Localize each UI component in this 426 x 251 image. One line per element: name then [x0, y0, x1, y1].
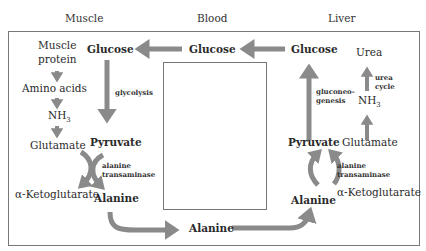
- blood-alanine-label: Alanine: [189, 223, 234, 234]
- liver-glucose-label: Glucose: [291, 44, 338, 55]
- urea-cycle-label-2: cycle: [375, 83, 395, 91]
- arrow-muscle-alanine-to-blood: [110, 212, 172, 230]
- glycolysis-label: glycolysis: [115, 89, 153, 97]
- muscle-glutamate-label: Glutamate: [30, 140, 86, 151]
- header-blood: Blood: [197, 13, 227, 24]
- muscle-protein-label-2: protein: [38, 54, 77, 65]
- liver-pyruvate-label: Pyruvate: [288, 137, 340, 148]
- muscle-pyruvate-label: Pyruvate: [90, 137, 142, 148]
- urea-cycle-label-1: urea: [375, 74, 393, 82]
- urea-label: Urea: [356, 47, 382, 58]
- muscle-nh3-label: NH3: [48, 110, 71, 124]
- liver-glutamate-label: Glutamate: [342, 137, 398, 148]
- gluconeogenesis-label-1: gluconeo-: [316, 88, 355, 96]
- muscle-enzyme-label-1: alanine: [102, 162, 131, 170]
- liver-enzyme-label-1: alanine: [337, 162, 366, 170]
- liver-alanine-label: Alanine: [291, 195, 336, 206]
- arrow-blood-alanine-to-liver: [232, 214, 309, 228]
- header-liver: Liver: [328, 13, 356, 24]
- blood-glucose-label: Glucose: [189, 44, 236, 55]
- gluconeogenesis-label-2: genesis: [316, 97, 345, 105]
- liver-nh3-label: NH3: [358, 95, 381, 109]
- muscle-glucose-label: Glucose: [87, 44, 134, 55]
- liver-nh3-subscript: 3: [376, 101, 380, 109]
- liver-alpha-ketoglutarate-label: α-Ketoglutarate: [337, 187, 421, 198]
- arrow-liver-alanine-to-pyruvate: [310, 154, 318, 185]
- muscle-enzyme-label-2: transaminase: [102, 171, 155, 179]
- arrows-layer: [0, 0, 426, 251]
- arrow-muscle-glutamate-to-akg: [81, 152, 91, 184]
- muscle-nh3-text: NH: [48, 109, 66, 121]
- liver-nh3-text: NH: [358, 94, 376, 106]
- amino-acids-label: Amino acids: [22, 83, 87, 94]
- liver-enzyme-label-2: transaminase: [337, 171, 390, 179]
- muscle-alanine-label: Alanine: [94, 193, 139, 204]
- muscle-alpha-ketoglutarate-label: α-Ketoglutarate: [15, 189, 99, 200]
- muscle-protein-label-1: Muscle: [38, 40, 76, 51]
- muscle-nh3-subscript: 3: [66, 116, 70, 124]
- header-muscle: Muscle: [65, 13, 103, 24]
